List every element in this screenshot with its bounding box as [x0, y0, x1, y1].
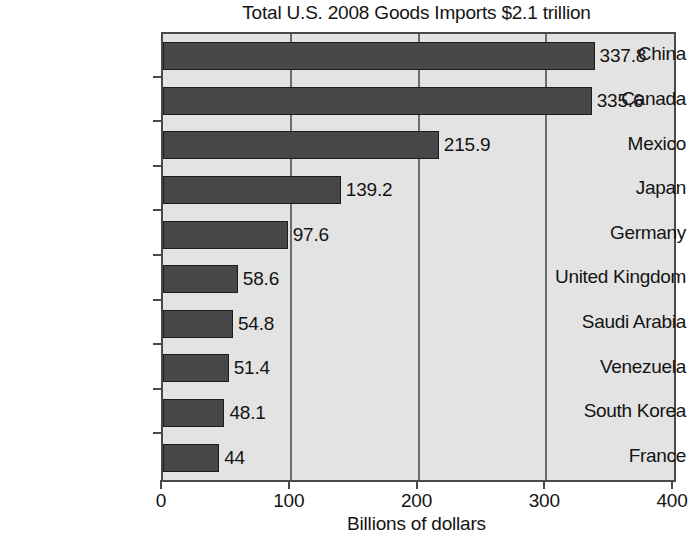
category-axis-tick — [153, 76, 162, 78]
bar[interactable] — [163, 221, 288, 249]
chart-title: Total U.S. 2008 Goods Imports $2.1 trill… — [161, 1, 672, 25]
category-axis-tick — [153, 343, 162, 345]
bar-value-label: 51.4 — [234, 354, 270, 382]
category-label-japan: Japan — [530, 177, 686, 199]
bar[interactable] — [163, 354, 229, 382]
category-label-saudi-arabia: Saudi Arabia — [530, 311, 686, 333]
value-axis-tick-label: 400 — [637, 489, 692, 513]
bar[interactable] — [163, 444, 219, 472]
category-axis-tick — [153, 388, 162, 390]
bar[interactable] — [163, 176, 341, 204]
category-axis-tick — [153, 209, 162, 211]
category-label-venezuela: Venezuela — [530, 356, 686, 378]
category-axis-tick — [153, 165, 162, 167]
category-label-mexico: Mexico — [530, 133, 686, 155]
bar-value-label: 44 — [224, 444, 245, 472]
value-axis-tick — [543, 480, 545, 489]
category-axis-tick — [153, 299, 162, 301]
category-label-china: China — [530, 43, 686, 65]
value-axis-tick-label: 300 — [509, 489, 579, 513]
bar[interactable] — [163, 399, 224, 427]
value-axis-tick — [671, 480, 673, 489]
category-axis-tick — [153, 432, 162, 434]
category-label-canada: Canada — [530, 88, 686, 110]
bar[interactable] — [163, 265, 238, 293]
category-label-south-korea: South Korea — [530, 400, 686, 422]
bar[interactable] — [163, 87, 592, 115]
bar-value-label: 139.2 — [346, 176, 393, 204]
value-axis-tick — [288, 480, 290, 489]
category-axis-tick — [153, 254, 162, 256]
category-label-united-kingdom: United Kingdom — [530, 266, 686, 288]
category-axis-tick — [153, 120, 162, 122]
bar[interactable] — [163, 310, 233, 338]
x-axis-title: Billions of dollars — [161, 512, 672, 536]
value-axis-tick — [160, 480, 162, 489]
value-axis-tick — [416, 480, 418, 489]
category-label-germany: Germany — [530, 222, 686, 244]
bar[interactable] — [163, 131, 439, 159]
value-axis-tick-label: 200 — [382, 489, 452, 513]
bar-value-label: 54.8 — [238, 310, 274, 338]
bar-value-label: 48.1 — [229, 399, 265, 427]
bar-value-label: 215.9 — [444, 131, 491, 159]
value-axis-tick-label: 0 — [126, 489, 196, 513]
bar-value-label: 58.6 — [243, 265, 279, 293]
category-label-france: France — [530, 445, 686, 467]
value-axis-tick-label: 100 — [254, 489, 324, 513]
bar-value-label: 97.6 — [293, 221, 329, 249]
